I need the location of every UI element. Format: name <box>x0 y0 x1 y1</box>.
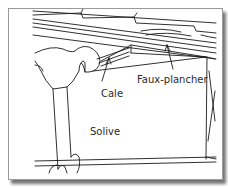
hammer-icon <box>35 47 100 174</box>
label-joist: Solive <box>90 127 120 137</box>
subfloor-boards <box>33 9 216 59</box>
joist <box>35 45 216 166</box>
illustration-frame: Cale Faux-plancher Solive <box>8 8 223 180</box>
label-shim: Cale <box>101 89 123 99</box>
label-subfloor: Faux-plancher <box>137 75 208 85</box>
shim <box>97 48 129 66</box>
